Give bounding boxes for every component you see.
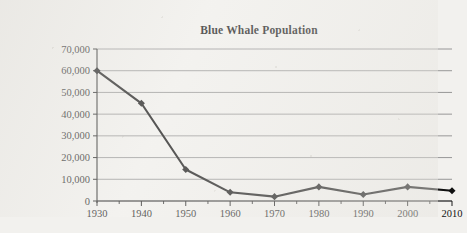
data-point-marker	[227, 189, 234, 196]
y-axis-tick-label: 60,000	[61, 65, 90, 76]
data-point-marker	[448, 187, 455, 194]
y-axis-tick-label: 10,000	[61, 174, 90, 185]
data-point-markers	[93, 67, 455, 200]
x-axis-tick-label: 2000	[397, 208, 418, 219]
data-point-marker	[315, 183, 322, 190]
y-axis-tick-label: 30,000	[61, 130, 90, 141]
y-axis-tick-label: 0	[85, 196, 90, 207]
x-axis-tick-label: 1950	[175, 208, 196, 219]
data-series-line	[97, 71, 452, 197]
gridlines	[97, 49, 452, 201]
x-axis-tick-label: 2010	[442, 208, 463, 219]
chart-plot-area: 010,00020,00030,00040,00050,00060,00070,…	[40, 16, 467, 233]
blue-whale-population-chart: Blue Whale Population 010,00020,00030,00…	[40, 16, 398, 201]
y-axis: 010,00020,00030,00040,00050,00060,00070,…	[61, 44, 97, 207]
data-point-marker	[271, 193, 278, 200]
y-axis-tick-label: 20,000	[61, 152, 90, 163]
y-axis-tick-label: 50,000	[61, 87, 90, 98]
data-point-marker	[404, 183, 411, 190]
x-axis-tick-label: 1980	[308, 208, 329, 219]
x-axis-tick-label: 1940	[131, 208, 152, 219]
x-axis-tick-label: 1930	[87, 208, 108, 219]
y-axis-tick-label: 70,000	[61, 44, 90, 55]
x-axis-tick-label: 1960	[220, 208, 241, 219]
series-line	[97, 71, 452, 197]
x-axis-tick-label: 1970	[264, 208, 285, 219]
y-axis-tick-label: 40,000	[61, 109, 90, 120]
x-axis-tick-label: 1990	[353, 208, 374, 219]
data-point-marker	[360, 191, 367, 198]
x-axis: 193019401950196019701980199020002010	[87, 201, 463, 219]
